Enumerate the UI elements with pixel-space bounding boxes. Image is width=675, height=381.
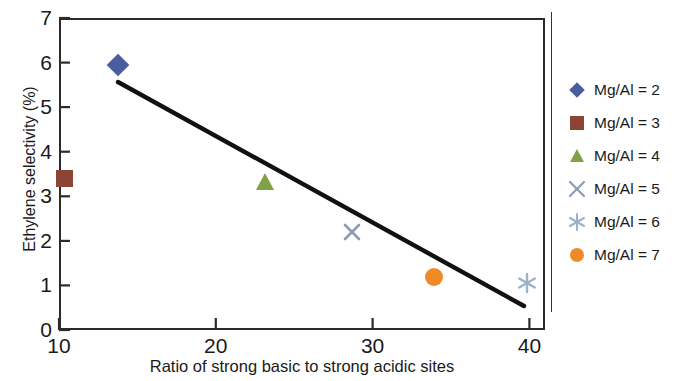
circle-marker-icon (566, 244, 588, 266)
legend-label-mgal6: Mg/Al = 6 (594, 213, 660, 231)
legend-item-mgal5[interactable]: Mg/Al = 5 (566, 172, 674, 205)
legend-label-mgal7: Mg/Al = 7 (594, 246, 660, 264)
x-tick-30: 30 (348, 335, 398, 356)
square-marker-icon (566, 112, 588, 134)
y-axis-title: Ethylene selectivity (%) (21, 54, 39, 284)
legend-label-mgal5: Mg/Al = 5 (594, 180, 660, 198)
x-tick-10: 10 (34, 335, 84, 356)
triangle-marker-icon (566, 145, 588, 167)
legend-item-mgal3[interactable]: Mg/Al = 3 (566, 106, 674, 139)
x-tick-40: 40 (504, 335, 554, 356)
legend-label-mgal3: Mg/Al = 3 (594, 114, 660, 132)
x-axis-title: Ratio of strong basic to strong acidic s… (59, 357, 545, 376)
legend-item-mgal6[interactable]: Mg/Al = 6 (566, 205, 674, 238)
legend: Mg/Al = 2 Mg/Al = 3 Mg/Al = 4 Mg/Al = 5 (566, 73, 674, 271)
x-cross-marker-icon (566, 178, 588, 200)
legend-item-mgal2[interactable]: Mg/Al = 2 (566, 73, 674, 106)
legend-label-mgal2: Mg/Al = 2 (594, 81, 660, 99)
legend-item-mgal4[interactable]: Mg/Al = 4 (566, 139, 674, 172)
diamond-marker-icon (566, 79, 588, 101)
legend-label-mgal4: Mg/Al = 4 (594, 147, 660, 165)
x-tick-20: 20 (191, 335, 241, 356)
asterisk-marker-icon (566, 211, 588, 233)
legend-item-mgal7[interactable]: Mg/Al = 7 (566, 238, 674, 271)
scatter-chart-figure: 7 6 5 4 3 2 1 0 10 20 30 40 Ethylene sel… (0, 0, 675, 381)
legend-divider (551, 12, 552, 312)
